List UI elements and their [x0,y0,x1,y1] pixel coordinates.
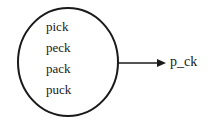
set-word-2: peck [46,41,71,54]
set-word-3: pack [46,62,71,75]
set-word-4: puck [46,83,71,96]
arrow-head-icon [157,59,166,67]
output-label: p_ck [170,55,197,69]
set-word-1: pick [46,20,68,33]
